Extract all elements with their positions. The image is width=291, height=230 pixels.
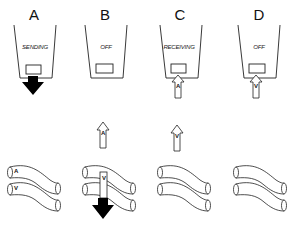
panel-d-state: OFF [234, 44, 284, 50]
panel-d-label: D [249, 6, 269, 23]
panel-b-state: OFF [81, 44, 131, 50]
floating-arrow-b-letter: A [101, 130, 105, 136]
cup-a-slot-icon [26, 65, 41, 74]
cup-b-slot-icon [96, 64, 113, 73]
panel-c-state: RECEIVING [154, 44, 204, 50]
receive-arrow-c-letter: A [176, 83, 180, 89]
tube-a-top-letter: A [14, 168, 18, 174]
cup-c-slot-icon [171, 64, 186, 73]
floating-arrow-c-letter: V [175, 133, 179, 139]
diagram-canvas: A B C D SENDING OFF RECEIVING OFF A V A … [0, 0, 291, 230]
cup-d-slot-icon [249, 64, 265, 73]
send-arrow-b-icon [92, 198, 114, 219]
cup-a-icon [14, 25, 56, 78]
cup-d-icon [238, 25, 280, 78]
tube-a-bottom-letter: V [14, 185, 18, 191]
panel-b-label: B [95, 6, 115, 23]
panel-a-label: A [24, 6, 44, 23]
panel-a-state: SENDING [10, 44, 60, 50]
send-arrow-a-icon [22, 76, 44, 95]
cup-c-icon [160, 25, 202, 78]
conduit-b-letter: V [102, 175, 106, 181]
receive-arrow-d-letter: V [254, 83, 258, 89]
diagram-drawing [0, 0, 291, 230]
cup-b-icon [85, 25, 127, 78]
panel-c-label: C [170, 6, 190, 23]
